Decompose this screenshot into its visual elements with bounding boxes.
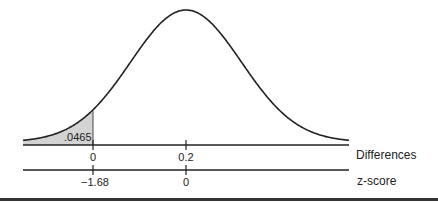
z-score-tick-label-neg1.68: −1.68 xyxy=(81,176,109,188)
normal-curve-chart xyxy=(0,0,438,203)
differences-tick-label-0: 0 xyxy=(90,151,96,163)
differences-axis-name: Differences xyxy=(356,148,416,162)
z-score-axis-name: z-score xyxy=(357,174,396,188)
differences-tick-label-0.2: 0.2 xyxy=(178,151,193,163)
bottom-divider xyxy=(0,198,438,201)
z-score-tick-label-0: 0 xyxy=(183,176,189,188)
bell-curve xyxy=(23,10,349,140)
shaded-area-value: .0465 xyxy=(64,131,92,143)
